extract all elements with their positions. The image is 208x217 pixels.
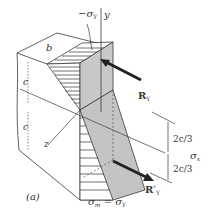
label-resultant-top: RY [138, 90, 151, 102]
z-axis-line [48, 110, 80, 145]
label-z-axis: z [43, 139, 49, 149]
label-bottom-equation: σm = σY [88, 196, 127, 208]
label-upper-c: c [23, 77, 28, 87]
label-lower-c: c [23, 122, 28, 132]
label-dim-upper: 2c/3 [173, 134, 193, 144]
label-width-b: b [46, 42, 52, 53]
lower-stress-block [80, 90, 145, 200]
label-y-axis: y [103, 9, 110, 20]
dimension-right [150, 112, 175, 183]
label-resultant-bottom: R′Y [145, 184, 161, 196]
panel-label: (a) [26, 191, 40, 202]
elastoplastic-stress-diagram: −σY y b c c z RY R′Y 2c/3 2c/3 σx (a) σm… [0, 0, 208, 217]
label-top-stress: −σY [78, 8, 98, 20]
label-side-stress: σx [190, 150, 201, 162]
label-dim-lower: 2c/3 [173, 164, 193, 174]
